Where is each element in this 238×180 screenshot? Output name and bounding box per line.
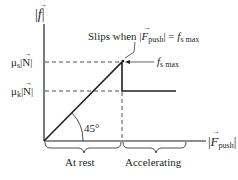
slip-f-sub: s max — [180, 35, 199, 44]
x-axis-symbol: F — [211, 135, 219, 148]
peak-sub: s max — [160, 60, 179, 69]
angle-arc — [72, 113, 83, 141]
friction-curve — [44, 62, 176, 141]
x-axis-label: |Fpush| — [208, 135, 236, 150]
accelerating-label: Accelerating — [125, 157, 181, 168]
slip-text: Slips when | — [88, 30, 142, 42]
y-axis-symbol: f — [38, 8, 42, 22]
at-rest-brace — [45, 142, 121, 153]
y-axis-label: |f| — [35, 8, 45, 22]
at-rest-label: At rest — [65, 157, 95, 168]
static-level-label: μs|N| — [11, 57, 32, 70]
slip-annotation: Slips when |Fpush| = fs max — [88, 31, 199, 44]
slip-eq: | = — [163, 30, 177, 42]
fsmax-label: fs max — [157, 56, 179, 69]
x-axis-sub: push — [219, 141, 234, 150]
kinetic-level-label: μk|N| — [11, 86, 33, 99]
slip-F: F — [142, 31, 149, 42]
accelerating-brace — [123, 142, 186, 153]
friction-graph — [0, 0, 238, 180]
slip-pointer — [125, 42, 135, 58]
angle-label: 45° — [84, 123, 99, 134]
slip-push-sub: push — [148, 35, 163, 44]
